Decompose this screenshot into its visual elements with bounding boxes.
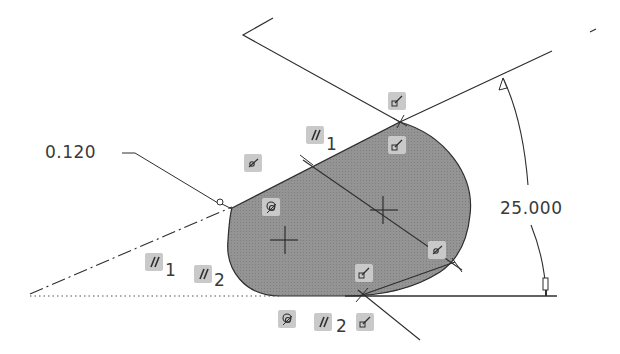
parallel-constraint-icon[interactable] [145,253,163,271]
arrowhead-top-icon [499,78,507,90]
tangent-constraint-icon[interactable] [388,92,406,110]
point-on-curve-icon[interactable] [244,154,262,172]
angle-dimension-arc[interactable] [503,78,528,185]
vertex-upper-left[interactable] [300,155,313,165]
concentric-constraint-icon[interactable] [278,310,296,328]
sketch-canvas[interactable] [0,0,620,354]
parallel-constraint-icon[interactable] [194,265,212,283]
parallel-index-label: 2 [214,270,225,290]
angle-dimension-label[interactable]: 25.000 [500,198,562,218]
tangent-tick [452,258,462,272]
parallel-constraint-icon[interactable] [314,313,332,331]
parallel-index-label: 2 [336,316,347,336]
arrowhead-bottom-icon [543,278,548,290]
tangent-constraint-icon[interactable] [388,136,406,154]
upper-slant-line[interactable] [400,51,552,122]
upper-slant-line-dash [590,29,596,32]
tangent-constraint-icon[interactable] [355,264,373,282]
leader-tail [222,204,232,209]
parallel-constraint-icon[interactable] [306,126,324,144]
parallel-index-label: 1 [326,134,337,154]
concentric-constraint-icon[interactable] [262,198,280,216]
offset-leader [122,153,218,203]
point-on-curve-icon[interactable] [428,241,446,259]
reference-line-top[interactable] [243,18,400,122]
tangent-constraint-icon[interactable] [356,313,374,331]
offset-dimension-label[interactable]: 0.120 [45,142,96,162]
parallel-index-label: 1 [165,260,176,280]
